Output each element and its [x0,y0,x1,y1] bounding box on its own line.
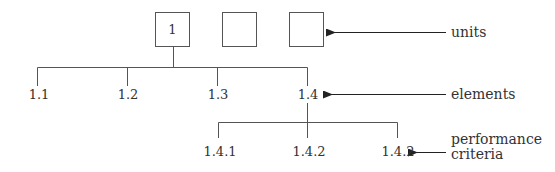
unit-box-3 [289,12,324,47]
criteria-node-1-4-1: 1.4.1 [203,145,236,159]
unit-box-1: 1 [155,12,190,47]
unit-box-2 [222,12,257,47]
hierarchy-diagram: 1 units 1.1 1.2 1.3 1.4 elements 1.4.1 1… [0,0,555,172]
units-annotation: units [451,25,486,40]
unit-box-label: 1 [168,22,176,37]
performance-criteria-annotation: performance criteria [451,132,542,162]
element-node-1-3: 1.3 [208,88,229,102]
elements-annotation: elements [451,87,515,102]
element-node-1-4: 1.4 [298,88,319,102]
criteria-node-1-4-2b: 1.4.2 [381,145,414,159]
annotation-line-2: criteria [451,147,542,162]
annotation-line-1: performance [451,132,542,147]
element-node-1-2: 1.2 [118,88,139,102]
element-node-1-1: 1.1 [29,88,50,102]
criteria-node-1-4-2: 1.4.2 [292,145,325,159]
